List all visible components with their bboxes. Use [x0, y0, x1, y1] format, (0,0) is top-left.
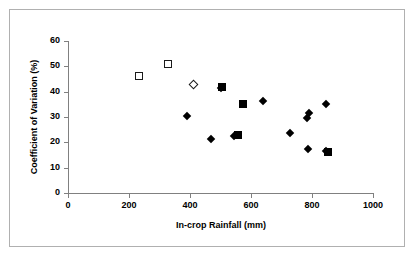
y-tick-mark	[64, 66, 68, 67]
x-tick-label: 0	[48, 200, 88, 210]
x-tick-mark	[312, 194, 313, 198]
y-tick-mark	[64, 117, 68, 118]
plot-area: 0102030405060 02004006008001000 Coeffici…	[0, 0, 418, 265]
y-tick-label: 50	[38, 60, 60, 70]
x-tick-mark	[251, 194, 252, 198]
y-tick-label: 0	[38, 187, 60, 197]
x-tick-mark	[190, 194, 191, 198]
data-point-open-square	[135, 72, 143, 80]
x-tick-mark	[129, 194, 130, 198]
data-point-filled-diamond	[207, 134, 215, 142]
data-point-filled-diamond	[258, 96, 266, 104]
x-tick-label: 400	[170, 200, 210, 210]
data-point-filled-square	[239, 100, 247, 108]
data-point-open-diamond	[189, 79, 199, 89]
data-point-open-square	[164, 60, 172, 68]
y-tick-label: 40	[38, 86, 60, 96]
y-axis-title: Coefficient of Variation (%)	[29, 37, 39, 197]
y-tick-mark	[64, 41, 68, 42]
x-axis-title: In-crop Rainfall (mm)	[68, 220, 374, 230]
y-tick-label: 60	[38, 35, 60, 45]
data-point-filled-diamond	[285, 129, 293, 137]
x-tick-label: 800	[292, 200, 332, 210]
chart-figure: 0102030405060 02004006008001000 Coeffici…	[0, 0, 418, 265]
x-tick-mark	[373, 194, 374, 198]
y-tick-label: 30	[38, 111, 60, 121]
data-point-filled-diamond	[183, 111, 191, 119]
y-tick-label: 10	[38, 162, 60, 172]
y-tick-mark	[64, 142, 68, 143]
y-tick-mark	[64, 92, 68, 93]
y-tick-label: 20	[38, 136, 60, 146]
x-axis-line	[68, 193, 374, 194]
x-tick-label: 1000	[353, 200, 393, 210]
x-tick-label: 200	[109, 200, 149, 210]
y-axis-line	[68, 41, 69, 194]
x-tick-label: 600	[231, 200, 271, 210]
data-point-filled-diamond	[304, 144, 312, 152]
data-point-filled-diamond	[321, 100, 329, 108]
y-tick-mark	[64, 168, 68, 169]
x-tick-mark	[68, 194, 69, 198]
